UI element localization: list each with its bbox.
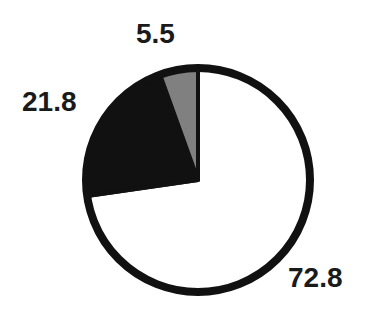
label-gray-slice: 5.5 xyxy=(136,20,175,48)
label-black-slice: 21.8 xyxy=(22,88,77,116)
label-white-slice: 72.8 xyxy=(288,264,343,292)
pie-chart: 5.5 21.8 72.8 xyxy=(0,0,368,316)
